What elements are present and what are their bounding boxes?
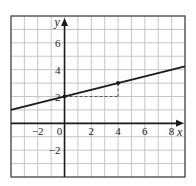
grid-lines <box>11 16 185 177</box>
x-tick-label: 8 <box>169 125 175 137</box>
y-tick-label: 6 <box>55 37 61 49</box>
y-tick-label: −2 <box>49 144 61 156</box>
x-tick-label: 4 <box>115 125 121 137</box>
x-tick-label: 2 <box>89 125 95 137</box>
y-axis-label: y <box>54 15 61 29</box>
coordinate-graph: −202468642−2 x y <box>0 0 196 186</box>
y-tick-label: 4 <box>55 64 61 76</box>
data-line-segment <box>11 66 185 110</box>
y-tick-label: 2 <box>55 91 61 103</box>
data-point <box>63 95 67 99</box>
x-axis-label: x <box>176 125 183 139</box>
x-tick-label: 6 <box>142 125 148 137</box>
y-axis-arrow-icon <box>61 18 68 26</box>
data-line <box>11 66 185 110</box>
x-tick-label: 0 <box>57 125 63 137</box>
data-point <box>116 81 120 85</box>
x-tick-label: −2 <box>32 125 44 137</box>
